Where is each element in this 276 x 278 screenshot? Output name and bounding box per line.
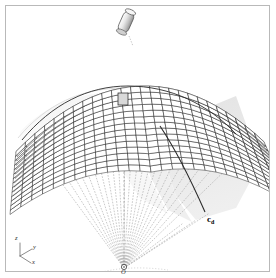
label-axis-z: z	[15, 235, 18, 242]
technical-figure: cd O z y x	[0, 0, 276, 278]
label-origin: O	[121, 269, 126, 276]
axis-triad	[20, 243, 32, 263]
figure-canvas	[0, 0, 276, 278]
cylinder-element	[116, 8, 137, 37]
label-axis-y: y	[33, 244, 36, 251]
ground-trace-arc	[96, 268, 168, 274]
highlighted-cell	[118, 93, 128, 105]
label-cd: cd	[207, 215, 214, 224]
label-axis-x: x	[32, 259, 35, 266]
cylinder-connector	[129, 36, 133, 46]
